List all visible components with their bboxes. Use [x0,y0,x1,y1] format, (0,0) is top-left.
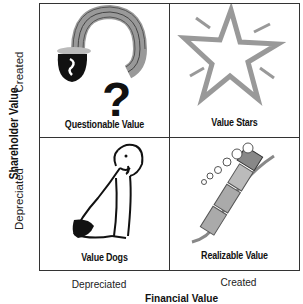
quadrant-label: Questionable Value [50,118,160,130]
x-tick-created: Created [220,276,256,288]
x-axis-title: Financial Value [145,292,218,304]
x-tick-depreciated: Depreciated [72,278,127,290]
svg-text:?: ? [102,73,131,122]
quadrant-value-stars: Value Stars [170,4,299,137]
quadrant-label: Value Stars [180,116,290,128]
y-tick-created: Created [13,47,25,97]
value-matrix-grid: ? Questionable Value Value Stars [39,3,300,271]
dog-icon [40,138,169,246]
quadrant-realizable-value: Realizable Value [170,138,299,271]
train-icon [170,138,299,246]
quadrant-label: Value Dogs [50,251,160,263]
star-icon [170,4,299,114]
quadrant-questionable-value: ? Questionable Value [40,4,169,137]
y-tick-depreciated: Depreciated [13,167,25,231]
pot-of-gold-rainbow-question-icon: ? [40,4,169,122]
quadrant-label: Realizable Value [180,249,290,261]
quadrant-value-dogs: Value Dogs [40,138,169,271]
